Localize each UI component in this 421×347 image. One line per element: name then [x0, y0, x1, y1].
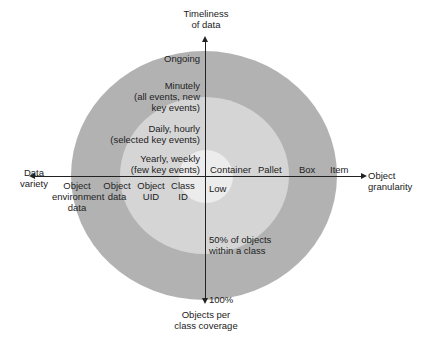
level-line: Object [100, 180, 134, 191]
level-line: (selected key events) [110, 134, 200, 145]
variety-object-environment-data: Object environment data [52, 180, 102, 213]
level-line: Low [209, 183, 226, 194]
timeliness-daily-hourly: Daily, hourly (selected key events) [110, 123, 200, 145]
level-line: within a class [209, 245, 271, 256]
axis-title-line: Objects per [166, 309, 246, 320]
granularity-container: Container [210, 164, 251, 175]
axis-title-line: Data [14, 167, 54, 178]
axis-title-timeliness: Timeliness of data [176, 8, 236, 30]
level-line: Minutely [134, 80, 200, 91]
arrow-right-icon [361, 173, 367, 179]
axis-title-variety: Data variety [14, 167, 54, 189]
coverage-100-percent: 100% [209, 294, 233, 305]
level-line: data [52, 202, 102, 213]
level-line: data [100, 191, 134, 202]
axis-title-line: granularity [368, 181, 412, 192]
granularity-box: Box [299, 164, 315, 175]
axis-title-coverage: Objects per class coverage [166, 309, 246, 331]
coverage-low: Low [209, 183, 226, 194]
level-line: ID [168, 191, 198, 202]
timeliness-minutely: Minutely (all events, new key events) [134, 80, 200, 113]
level-line: Yearly, weekly [131, 153, 200, 164]
variety-object-data: Object data [100, 180, 134, 202]
arrow-down-icon [202, 298, 208, 304]
coverage-50-percent: 50% of objects within a class [209, 234, 271, 256]
axis-title-line: Timeliness [176, 8, 236, 19]
level-line: Daily, hourly [110, 123, 200, 134]
level-line: Ongoing [164, 53, 200, 64]
axis-title-line: Object [368, 170, 412, 181]
level-line: environment [52, 191, 102, 202]
level-line: 50% of objects [209, 234, 271, 245]
level-line: (all events, new [134, 91, 200, 102]
level-line: Object [52, 180, 102, 191]
level-line: 100% [209, 294, 233, 305]
timeliness-yearly-weekly: Yearly, weekly (few key events) [131, 153, 200, 175]
vertical-axis [205, 41, 206, 298]
arrow-up-icon [202, 36, 208, 42]
level-line: UID [134, 191, 168, 202]
axis-title-line: class coverage [166, 320, 246, 331]
variety-class-id: Class ID [168, 180, 198, 202]
axis-title-granularity: Object granularity [368, 170, 412, 192]
axis-title-line: of data [176, 19, 236, 30]
granularity-item: Item [330, 164, 348, 175]
axis-title-line: variety [14, 178, 54, 189]
level-line: Class [168, 180, 198, 191]
level-line: key events) [134, 102, 200, 113]
level-line: Object [134, 180, 168, 191]
timeliness-ongoing: Ongoing [164, 53, 200, 64]
variety-object-uid: Object UID [134, 180, 168, 202]
level-line: (few key events) [131, 164, 200, 175]
horizontal-axis [35, 176, 362, 177]
granularity-pallet: Pallet [258, 164, 282, 175]
